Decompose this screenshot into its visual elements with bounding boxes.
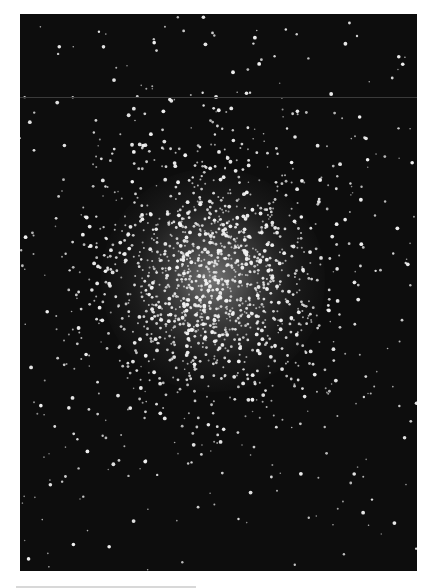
cluster-photo [20, 14, 417, 571]
scan-line-artifact [20, 97, 417, 98]
